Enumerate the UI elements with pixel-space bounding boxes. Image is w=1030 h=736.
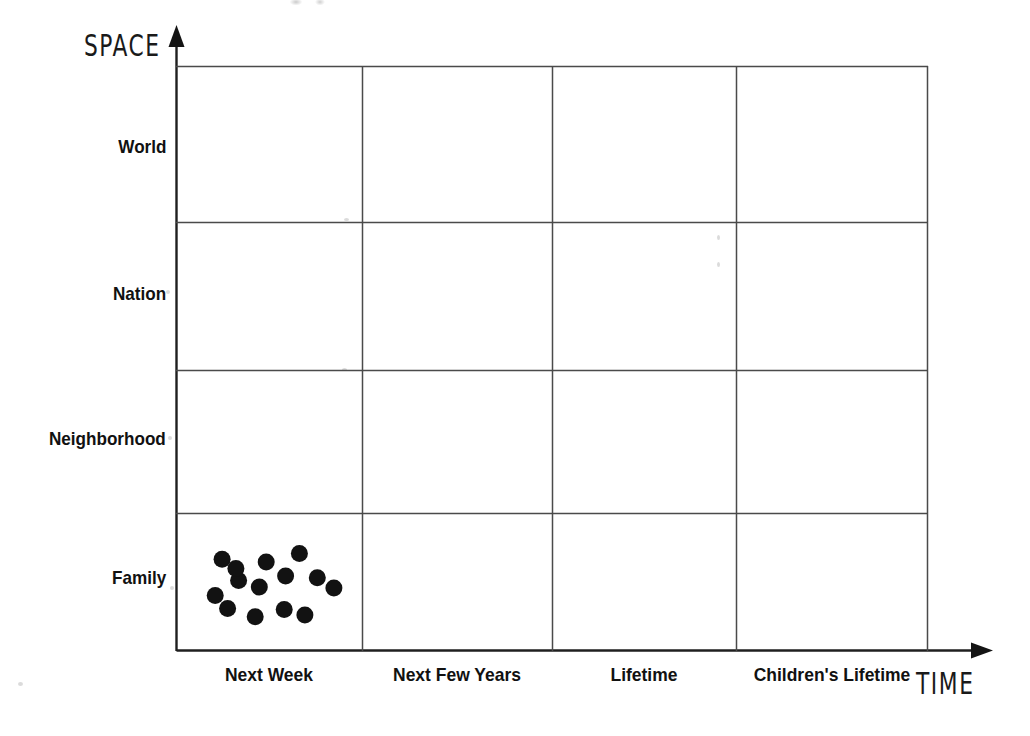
vertical-gridlines [363, 66, 928, 651]
y-tick-world: World [118, 136, 166, 158]
data-point [296, 607, 313, 624]
x-tick-lifetime: Lifetime [559, 664, 728, 686]
data-point [276, 601, 293, 618]
data-point [309, 569, 326, 586]
data-point [227, 560, 244, 577]
y-tick-nation: Nation [113, 283, 166, 305]
figure-root: World Nation Neighborhood Family Next We… [0, 0, 1030, 736]
y-axis-spine [169, 25, 185, 651]
data-point-group [207, 545, 343, 625]
y-axis-title: SPACE [84, 28, 161, 62]
data-point [219, 600, 236, 617]
y-axis-tick-labels: World Nation Neighborhood Family [0, 0, 166, 736]
x-axis-title: TIME [916, 666, 974, 700]
y-tick-family: Family [112, 567, 166, 589]
data-point [214, 551, 231, 568]
x-tick-next-week: Next Week [183, 664, 354, 686]
data-point [251, 579, 268, 596]
data-point [325, 580, 342, 597]
y-tick-neighborhood: Neighborhood [49, 428, 166, 450]
x-axis-spine [177, 643, 994, 659]
data-point [291, 545, 308, 562]
x-tick-childrens-lifetime: Children's Lifetime [744, 664, 921, 686]
data-point [247, 608, 264, 625]
data-point [207, 587, 224, 604]
x-tick-next-few-years: Next Few Years [370, 664, 545, 686]
data-point [258, 554, 275, 571]
data-point [277, 567, 294, 584]
